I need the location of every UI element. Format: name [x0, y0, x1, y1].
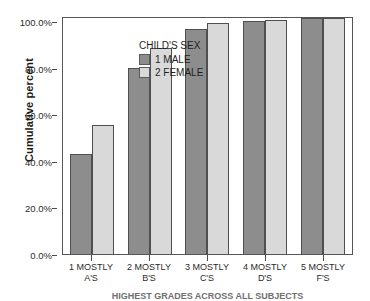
bar-female[interactable] — [323, 18, 345, 254]
y-tick-mark — [52, 162, 57, 163]
bar-female[interactable] — [207, 23, 229, 254]
x-axis-title: HIGHEST GRADES ACROSS ALL SUBJECTS — [62, 291, 353, 301]
y-tick-label: 20.0% — [8, 203, 52, 214]
bar-male[interactable] — [70, 154, 92, 254]
y-axis-tick-group: 100.0% 80.0% 60.0% 40.0% 20.0% 0.0% — [8, 0, 52, 301]
legend-label-female: 2 FEMALE — [155, 67, 203, 78]
bar-female[interactable] — [265, 20, 287, 254]
plot-frame: CHILD'S SEX 1 MALE 2 FEMALE — [62, 17, 353, 255]
legend-title: CHILD'S SEX — [139, 40, 203, 51]
legend-swatch-female-icon — [139, 67, 150, 78]
legend-swatch-male-icon — [139, 54, 150, 65]
x-tick-label: 5 MOSTLY F'S — [285, 262, 361, 283]
x-tick-mark — [207, 255, 208, 261]
bar-male[interactable] — [301, 18, 323, 254]
legend-item-male[interactable]: 1 MALE — [139, 54, 203, 65]
bar-male[interactable] — [243, 21, 265, 254]
y-tick-mark — [52, 22, 57, 23]
legend: CHILD'S SEX 1 MALE 2 FEMALE — [135, 38, 207, 81]
cumulative-percent-bar-chart: Cumulative percent 100.0% 80.0% 60.0% 40… — [0, 0, 370, 301]
bar-group — [236, 18, 294, 254]
bar-group — [294, 18, 352, 254]
x-tick-mark — [149, 255, 150, 261]
bar-group — [63, 18, 121, 254]
legend-item-female[interactable]: 2 FEMALE — [139, 67, 203, 78]
y-tick-mark — [52, 69, 57, 70]
y-tick-label: 100.0% — [8, 17, 52, 28]
y-tick-mark — [52, 115, 57, 116]
bar-group-container — [63, 18, 352, 254]
x-tick-mark — [91, 255, 92, 261]
legend-label-male: 1 MALE — [155, 54, 191, 65]
y-tick-mark — [52, 208, 57, 209]
y-tick-mark — [52, 255, 57, 256]
x-tick-label-line1: 5 MOSTLY — [285, 262, 361, 273]
y-tick-label: 60.0% — [8, 110, 52, 121]
bar-female[interactable] — [92, 125, 114, 254]
bar-male[interactable] — [128, 68, 150, 254]
y-tick-label: 0.0% — [8, 250, 52, 261]
plot-area — [63, 18, 352, 254]
y-tick-label: 80.0% — [8, 63, 52, 74]
y-tick-label: 40.0% — [8, 156, 52, 167]
x-tick-mark — [323, 255, 324, 261]
x-tick-label-line2: F'S — [285, 273, 361, 284]
x-tick-mark — [265, 255, 266, 261]
